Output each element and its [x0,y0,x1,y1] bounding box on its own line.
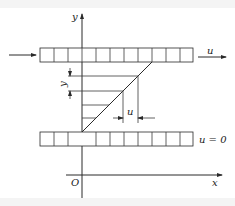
y-dimension-label: y [57,81,68,88]
bottom-velocity-label: u = 0 [199,134,227,145]
u-dimension-label: u [127,106,133,117]
x-axis: x O [66,175,222,188]
top-velocity-label: u [207,45,213,56]
origin-label: O [71,177,79,188]
x-axis-label: x [212,177,218,188]
velocity-profile [68,62,152,132]
couette-flow-diagram: y x O u u = 0 [0,0,235,206]
top-plate [40,48,193,62]
y-axis: y [71,11,82,198]
top-plate-velocity: u [198,45,226,57]
y-dimension: y [57,68,70,99]
u-dimension: u [113,106,155,118]
y-axis-label: y [71,11,78,22]
bottom-plate: u = 0 [40,132,227,146]
